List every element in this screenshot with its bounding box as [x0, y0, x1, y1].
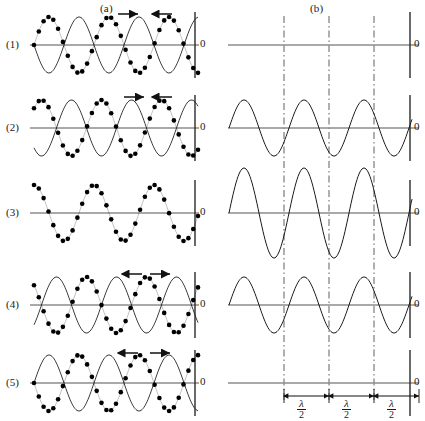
- wave-dot-row-3: [94, 184, 99, 189]
- wave-dot-row-3: [109, 217, 114, 222]
- zero-label-right-5: 0: [414, 375, 420, 387]
- lambda-numerator-3: λ: [387, 398, 396, 409]
- wave-dot-row-4: [162, 311, 167, 316]
- wave-dot-row-1: [70, 65, 75, 70]
- wave-dot-row-2: [80, 138, 85, 143]
- zero-label-right-2: 0: [414, 120, 420, 132]
- wave-dot-row-2: [152, 105, 157, 110]
- wave-dot-row-2: [172, 118, 177, 123]
- wave-dot-row-1: [85, 61, 90, 66]
- wave-dot-row-3: [138, 207, 143, 212]
- wave-dot-row-3: [186, 236, 191, 241]
- lambda-half-label-3: λ 2: [387, 398, 396, 420]
- wave-dot-row-4: [41, 309, 46, 314]
- wave-dot-row-1: [191, 66, 196, 71]
- wave-dot-row-1: [186, 55, 191, 60]
- wave-dot-row-1: [61, 40, 66, 45]
- wave-dot-row-5: [172, 405, 177, 410]
- wave-dot-row-3: [61, 239, 66, 244]
- zero-label-right-1: 0: [414, 37, 420, 49]
- wave-dot-row-2: [94, 101, 99, 106]
- wave-dot-row-2: [85, 124, 90, 129]
- wave-dot-row-5: [196, 353, 201, 358]
- wave-dot-row-3: [70, 228, 75, 233]
- wave-dot-row-4: [196, 285, 201, 290]
- wave-dot-row-4: [85, 275, 90, 280]
- wave-dot-row-4: [32, 283, 37, 288]
- wave-dot-row-3: [85, 190, 90, 195]
- wave-dot-row-4: [94, 289, 99, 294]
- wave-dot-row-3: [176, 235, 181, 240]
- row-label-3: (3): [6, 206, 32, 218]
- wave-dot-row-4: [123, 319, 128, 324]
- wave-dot-row-5: [167, 409, 172, 414]
- node-gridlines-group: [284, 16, 374, 400]
- wave-dot-row-3: [37, 186, 42, 191]
- wave-dot-row-3: [80, 201, 85, 206]
- wave-dot-row-2: [119, 138, 124, 143]
- wave-dot-row-1: [167, 15, 172, 20]
- wave-dot-row-3: [143, 194, 148, 199]
- wave-dot-row-2: [56, 130, 61, 135]
- wave-dot-row-1: [32, 43, 37, 48]
- wave-dot-row-4: [143, 275, 148, 280]
- wave-dot-row-5: [133, 355, 138, 360]
- wave-dot-row-2: [41, 98, 46, 103]
- wave-dot-row-5: [191, 358, 196, 363]
- wave-dot-row-2: [70, 154, 75, 159]
- wave-dot-row-3: [51, 223, 56, 228]
- wave-dot-row-4: [191, 298, 196, 303]
- wave-dot-row-5: [186, 368, 191, 373]
- wave-dot-row-5: [41, 404, 46, 409]
- axes-group: [30, 12, 419, 416]
- wave-dot-row-4: [181, 323, 186, 328]
- wave-dot-row-1: [143, 65, 148, 70]
- wave-dot-row-5: [128, 363, 133, 368]
- wave-dot-row-5: [51, 406, 56, 411]
- wave-dot-row-5: [162, 405, 167, 410]
- wave-dot-row-3: [56, 234, 61, 239]
- zero-label-right-4: 0: [414, 297, 420, 309]
- wave-dot-row-4: [99, 303, 104, 308]
- wave-dot-row-5: [61, 384, 66, 389]
- wave-dot-row-2: [66, 152, 71, 157]
- row-label-1: (1): [6, 38, 32, 50]
- wave-dot-row-3: [181, 239, 186, 244]
- wave-dot-row-2: [109, 111, 114, 116]
- wave-dot-row-3: [90, 183, 95, 188]
- wave-dot-row-5: [109, 408, 114, 413]
- wave-dot-row-5: [75, 353, 80, 358]
- wave-dot-row-2: [138, 143, 143, 148]
- wave-dot-row-1: [94, 35, 99, 40]
- wave-dot-row-1: [37, 29, 42, 34]
- wave-dot-row-4: [176, 330, 181, 335]
- wave-dot-row-3: [114, 229, 119, 234]
- zero-label-right-3: 0: [414, 205, 420, 217]
- wave-dot-row-1: [162, 18, 167, 23]
- wave-dot-row-1: [123, 48, 128, 53]
- zero-label-left-4: 0: [200, 297, 206, 309]
- wave-dot-row-1: [56, 27, 61, 32]
- wave-dot-row-4: [148, 276, 153, 281]
- wave-dot-row-1: [99, 23, 104, 28]
- wave-dot-row-3: [99, 191, 104, 196]
- wave-dot-row-1: [41, 19, 46, 24]
- zero-label-left-5: 0: [200, 375, 206, 387]
- wave-dot-row-4: [128, 306, 133, 311]
- wave-dot-row-5: [143, 358, 148, 363]
- wave-dot-row-1: [172, 18, 177, 23]
- wave-dot-row-4: [70, 300, 75, 305]
- wave-dot-row-5: [123, 376, 128, 381]
- wave-dot-row-2: [181, 145, 186, 150]
- lambda-half-label-2: λ 2: [342, 398, 351, 420]
- wave-dot-row-2: [196, 147, 201, 152]
- wave-dot-row-5: [66, 370, 71, 375]
- wave-dot-row-2: [104, 101, 109, 106]
- lambda-half-label-1: λ 2: [297, 398, 306, 420]
- wave-diagram-canvas: [0, 0, 425, 421]
- wave-dot-row-5: [90, 375, 95, 380]
- wave-dot-row-3: [191, 227, 196, 232]
- wave-dot-row-3: [46, 209, 51, 214]
- wave-dot-row-4: [152, 284, 157, 289]
- wave-dot-row-1: [138, 71, 143, 76]
